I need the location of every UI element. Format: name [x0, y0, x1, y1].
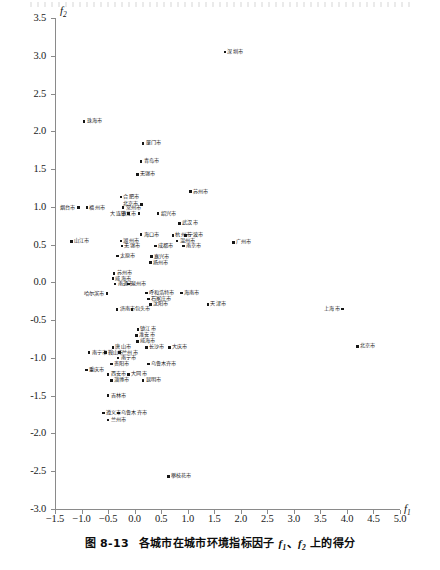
x-tick-label: 5.0: [380, 513, 420, 524]
figure-caption: 图 8-13各城市在城市环境指标因子 f1、f2 上的得分: [0, 534, 440, 552]
y-tick-mark: [51, 245, 55, 246]
data-point: [116, 308, 119, 311]
data-point: [120, 196, 123, 199]
data-point-label: 太原市: [120, 253, 135, 259]
data-point: [107, 419, 110, 422]
data-point-label: 苏州市: [193, 189, 208, 195]
y-tick-mark: [51, 94, 55, 95]
data-point-label: 成都市: [158, 243, 173, 249]
y-tick-label: -1.5: [6, 390, 46, 401]
caption-separator: 、: [287, 537, 298, 550]
data-point-label: 扬州市: [153, 260, 168, 266]
data-point-label: 无锡市: [124, 243, 139, 249]
data-point-label: 南京市: [186, 243, 201, 249]
data-point-label: 海口市: [144, 232, 159, 238]
y-tick-mark: [51, 169, 55, 170]
data-point: [168, 346, 171, 349]
data-point: [117, 357, 120, 360]
data-point: [106, 292, 109, 295]
caption-f1: f1: [279, 537, 287, 549]
data-point: [157, 212, 160, 215]
y-tick-mark: [51, 396, 55, 397]
data-point: [232, 241, 235, 244]
y-tick-mark: [51, 56, 55, 57]
data-point-label: 兰州市: [111, 417, 126, 423]
data-point: [104, 351, 107, 354]
data-point: [127, 283, 130, 286]
data-point: [147, 363, 150, 366]
data-point: [176, 240, 179, 243]
data-point: [117, 412, 120, 415]
y-tick-label: -1.0: [6, 352, 46, 363]
data-point-label: 乌鲁木齐市: [151, 361, 177, 367]
data-point-label: 大同市: [131, 371, 146, 377]
data-point: [107, 373, 110, 376]
y-tick-label: 1.5: [6, 163, 46, 174]
data-point-label: 重庆市: [89, 367, 104, 373]
data-point: [136, 173, 139, 176]
data-point: [224, 51, 227, 54]
y-tick-mark: [51, 433, 55, 434]
data-point-label: 绍兴市: [161, 211, 176, 217]
data-point: [149, 261, 152, 264]
x-axis-line: [55, 509, 400, 510]
y-axis-line: [55, 18, 56, 510]
data-point: [145, 292, 148, 295]
y-tick-mark: [51, 471, 55, 472]
data-point-label: 泉州市: [131, 281, 146, 287]
data-point: [178, 222, 181, 225]
data-point-label: 北京市: [0, 201, 139, 207]
data-point-label: 昆明市: [146, 377, 161, 383]
y-tick-mark: [51, 358, 55, 359]
y-axis-title: f2: [60, 4, 67, 19]
caption-text-before: 各城市在城市环境指标因子: [139, 537, 279, 550]
y-tick-label: 3.0: [6, 50, 46, 61]
data-point: [85, 369, 88, 372]
data-point-label: 海南市: [184, 290, 199, 296]
data-point: [341, 308, 344, 311]
y-tick-label: -2.0: [6, 427, 46, 438]
data-point: [110, 363, 113, 366]
y-tick-label: -2.5: [6, 465, 46, 476]
data-point: [145, 346, 148, 349]
data-point: [107, 394, 110, 397]
data-point: [127, 373, 130, 376]
y-tick-label: 0.5: [6, 239, 46, 250]
data-point: [180, 292, 183, 295]
data-point-label: 广州市: [236, 239, 251, 245]
data-point-label: 珠海市: [87, 118, 102, 124]
data-point-label: 哈尔滨市: [0, 291, 104, 297]
data-point: [120, 240, 123, 243]
y-tick-mark: [51, 131, 55, 132]
data-point: [154, 245, 157, 248]
data-point-label: 镇江市: [0, 211, 136, 217]
data-point-label: 大庆市: [172, 344, 187, 350]
data-point: [136, 340, 139, 343]
data-point-label: 长沙市: [149, 344, 164, 350]
data-point: [140, 160, 143, 163]
data-point: [150, 255, 153, 258]
data-point-label: 北京市: [360, 343, 375, 349]
y-tick-mark: [51, 282, 55, 283]
data-point: [167, 475, 170, 478]
figure-container: f2 f1 3.53.02.52.01.51.00.50.0-0.5-1.0-1…: [0, 0, 440, 570]
data-point: [142, 379, 145, 382]
data-point: [189, 190, 192, 193]
data-point: [83, 120, 86, 123]
caption-f2: f2: [298, 537, 306, 549]
data-point-label: 合肥市: [123, 194, 138, 200]
y-tick-mark: [51, 320, 55, 321]
data-point: [88, 351, 91, 354]
y-tick-label: 0.0: [6, 276, 46, 287]
data-point: [135, 334, 138, 337]
y-tick-label: -0.5: [6, 314, 46, 325]
data-point-label: 乌鲁木齐市: [121, 410, 147, 416]
y-tick-label: 2.0: [6, 125, 46, 136]
data-point: [131, 308, 134, 311]
data-point-label: 深圳市: [227, 49, 242, 55]
data-point-label: 上海市: [0, 306, 340, 312]
data-point: [172, 234, 175, 237]
y-tick-label: 2.5: [6, 88, 46, 99]
data-point: [138, 212, 141, 215]
data-point: [116, 255, 119, 258]
